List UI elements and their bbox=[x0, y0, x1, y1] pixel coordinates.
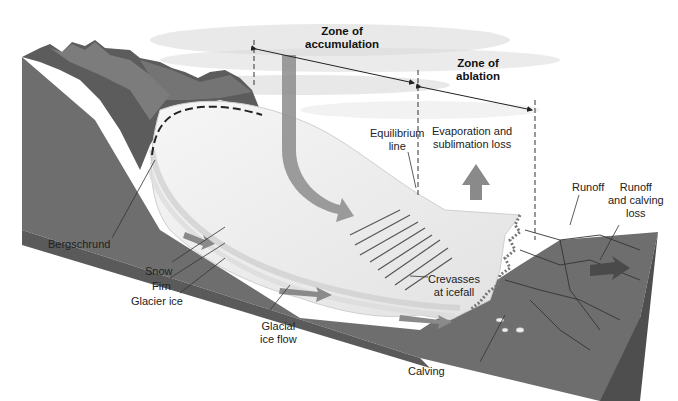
equilibrium-line2: line bbox=[370, 140, 424, 153]
zone-accumulation-line2: accumulation bbox=[305, 38, 379, 51]
runoff-label: Runoff bbox=[572, 181, 604, 194]
runoff-calving-line1: Runoff bbox=[608, 181, 664, 194]
glacial-ice-flow-line2: ice flow bbox=[260, 333, 297, 346]
zone-accumulation-label: Zone of accumulation bbox=[305, 25, 379, 51]
glacial-ice-flow-label: Glacial ice flow bbox=[260, 320, 297, 346]
evaporation-line2: sublimation loss bbox=[432, 138, 512, 151]
runoff-calving-line3: loss bbox=[608, 207, 664, 220]
equilibrium-line1: Equilibrium bbox=[370, 127, 424, 140]
diagram-artwork bbox=[0, 0, 678, 401]
glacier-diagram: Zone of accumulation Zone of ablation Ev… bbox=[0, 0, 678, 401]
evaporation-line1: Evaporation and bbox=[432, 125, 512, 138]
equilibrium-line-label: Equilibrium line bbox=[370, 127, 424, 153]
firn-label: Firn bbox=[152, 280, 171, 293]
crevasses-line2: at icefall bbox=[428, 286, 480, 299]
snow-label: Snow bbox=[145, 265, 173, 278]
evaporation-label: Evaporation and sublimation loss bbox=[432, 125, 512, 151]
runoff-calving-label: Runoff and calving loss bbox=[608, 181, 664, 220]
crevasses-label: Crevasses at icefall bbox=[428, 273, 480, 299]
runoff-calving-line2: and calving bbox=[608, 194, 664, 207]
zone-accumulation-line1: Zone of bbox=[305, 25, 379, 38]
crevasses-line1: Crevasses bbox=[428, 273, 480, 286]
zone-ablation-line1: Zone of bbox=[456, 57, 500, 70]
evaporation-arrow bbox=[462, 164, 490, 200]
bergschrund-label: Bergschrund bbox=[48, 238, 110, 251]
zone-ablation-label: Zone of ablation bbox=[456, 57, 500, 83]
glacier-ice-label: Glacier ice bbox=[131, 295, 183, 308]
glacial-ice-flow-line1: Glacial bbox=[260, 320, 297, 333]
calving-label: Calving bbox=[408, 365, 445, 378]
zone-ablation-line2: ablation bbox=[456, 70, 500, 83]
